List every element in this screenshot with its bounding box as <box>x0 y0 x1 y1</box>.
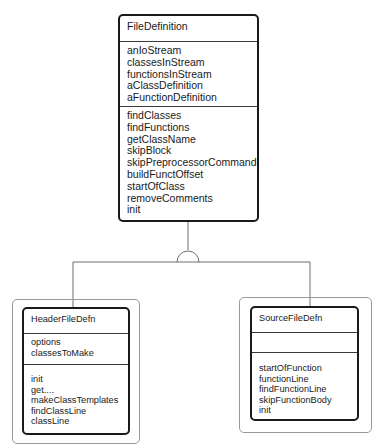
method: init <box>31 374 121 385</box>
attributes-compartment: options classesToMake <box>24 333 128 364</box>
attributes-compartment <box>252 332 357 352</box>
method: findFunctions <box>127 122 250 134</box>
attribute: classesToMake <box>31 348 121 359</box>
method: classLine <box>31 416 121 427</box>
generalization-junction-icon <box>177 251 199 262</box>
method: init <box>127 204 250 216</box>
attribute: options <box>31 337 121 348</box>
class-name-compartment: SourceFileDefn <box>252 308 357 332</box>
method: init <box>259 405 350 416</box>
attribute: classesInStream <box>127 57 250 69</box>
method: findFunctionLine <box>259 384 350 395</box>
class-name: SourceFileDefn <box>259 313 350 324</box>
class-file-definition[interactable]: FileDefinition anIoStream classesInStrea… <box>118 14 259 222</box>
methods-compartment: startOfFunction functionLine findFunctio… <box>252 352 357 419</box>
attributes-compartment: anIoStream classesInStream functionsInSt… <box>120 41 257 106</box>
class-name: HeaderFileDefn <box>31 314 121 325</box>
method: makeClassTemplates <box>31 395 121 406</box>
method: removeComments <box>127 193 250 205</box>
methods-compartment: init get.... makeClassTemplates findClas… <box>24 364 128 433</box>
method: startOfClass <box>127 181 250 193</box>
method: get.... <box>31 385 121 396</box>
methods-compartment: findClasses findFunctions getClassName s… <box>120 106 257 220</box>
method: skipFunctionBody <box>259 395 350 406</box>
method: startOfFunction <box>259 363 350 374</box>
class-name-compartment: HeaderFileDefn <box>24 309 128 333</box>
method: buildFunctOffset <box>127 169 250 181</box>
class-source-file-defn[interactable]: SourceFileDefn startOfFunction functionL… <box>250 306 359 421</box>
class-name: FileDefinition <box>127 21 250 33</box>
method: findClassLine <box>31 406 121 417</box>
method: functionLine <box>259 374 350 385</box>
class-header-file-defn[interactable]: HeaderFileDefn options classesToMake ini… <box>22 307 130 435</box>
class-name-compartment: FileDefinition <box>120 16 257 41</box>
attribute: aFunctionDefinition <box>127 92 250 104</box>
